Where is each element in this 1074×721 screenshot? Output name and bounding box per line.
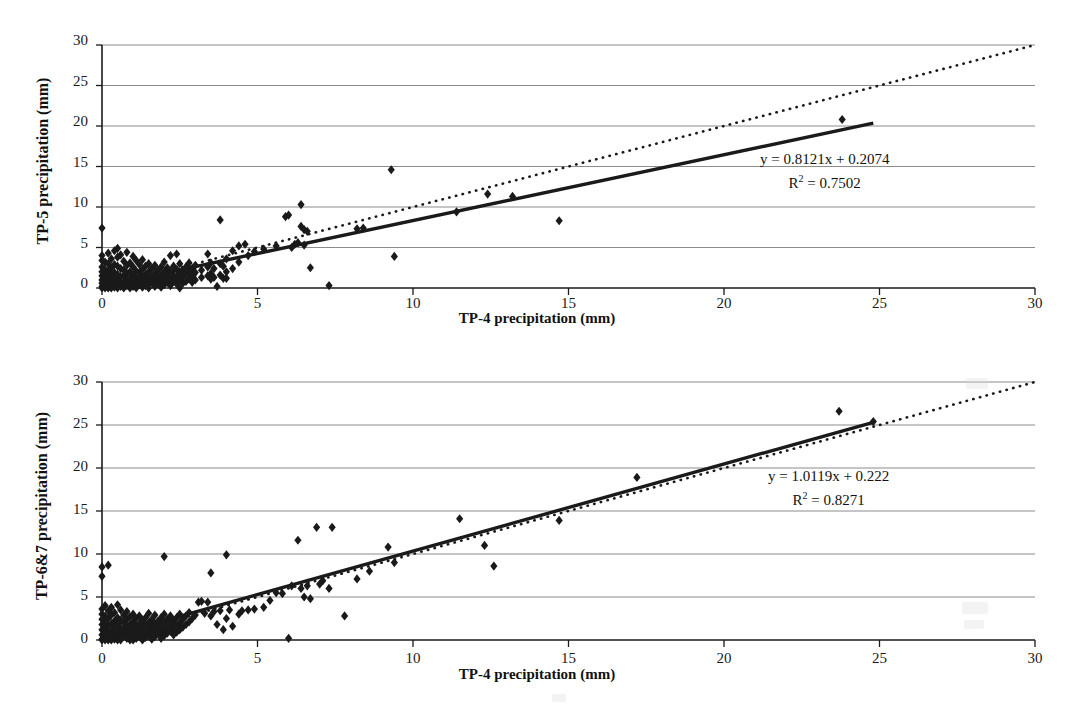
chart-1-y-axis-title: TP-5 precipitation (mm) — [33, 40, 51, 283]
data-point-marker — [385, 543, 392, 552]
data-point-marker — [198, 273, 205, 282]
chart-2-rsquared-exponent: 2 — [803, 490, 808, 501]
data-point-marker — [235, 241, 242, 250]
chart-1-equation-line: y = 0.8121x + 0.2074 — [760, 148, 889, 171]
x-tick-label: 25 — [860, 650, 900, 667]
data-point-marker — [105, 561, 112, 570]
chart-2-equation-line: y = 1.0119x + 0.222 — [768, 465, 889, 488]
chart-1-rsquared-exponent: 2 — [799, 173, 804, 184]
data-point-marker — [481, 541, 488, 550]
data-point-marker — [204, 598, 211, 607]
data-point-marker — [123, 248, 130, 257]
y-tick-label: 20 — [50, 458, 88, 475]
x-tick-label: 25 — [860, 295, 900, 312]
x-tick-label: 30 — [1015, 295, 1055, 312]
y-tick-label: 5 — [50, 587, 88, 604]
chart-1-data-points — [98, 115, 845, 293]
chart-2-x-axis-title: TP-4 precipitation (mm) — [0, 666, 1074, 683]
data-point-marker — [223, 614, 230, 623]
x-tick-label: 15 — [549, 295, 589, 312]
data-point-marker — [329, 523, 336, 532]
chart-1-gridlines — [102, 45, 1035, 248]
chart-2-equation-annotation: y = 1.0119x + 0.222 R2 = 0.8271 — [768, 465, 889, 511]
chart-1-rsquared-label: R — [789, 175, 799, 191]
regression-fit-line — [102, 422, 873, 638]
data-point-marker — [223, 550, 230, 559]
regression-fit-line — [102, 123, 873, 286]
scatter-chart-tp5: y = 0.8121x + 0.2074 R2 = 0.7502 TP-5 pr… — [0, 0, 1074, 360]
chart-2-data-points — [98, 407, 876, 645]
data-point-marker — [391, 252, 398, 261]
scan-artifact-a — [966, 378, 988, 389]
y-tick-label: 10 — [50, 194, 88, 211]
y-tick-label: 30 — [50, 372, 88, 389]
x-tick-label: 20 — [704, 295, 744, 312]
data-point-marker — [229, 622, 236, 631]
data-point-marker — [301, 592, 308, 601]
chart-2-rsquared-label: R — [793, 492, 803, 508]
data-point-marker — [161, 552, 168, 561]
data-point-marker — [353, 574, 360, 583]
data-point-marker — [307, 594, 314, 603]
y-tick-label: 5 — [50, 235, 88, 252]
data-point-marker — [556, 216, 563, 225]
y-tick-label: 0 — [50, 275, 88, 292]
chart-2-gridlines — [102, 382, 1035, 597]
figure-root: y = 0.8121x + 0.2074 R2 = 0.7502 TP-5 pr… — [0, 0, 1074, 721]
data-point-marker — [835, 407, 842, 416]
y-tick-label: 10 — [50, 544, 88, 561]
data-point-marker — [456, 514, 463, 523]
y-tick-label: 0 — [50, 630, 88, 647]
data-point-marker — [207, 568, 214, 577]
data-point-marker — [204, 249, 211, 258]
data-point-marker — [325, 584, 332, 593]
data-point-marker — [366, 567, 373, 576]
chart-1-x-axis-title: TP-4 precipitation (mm) — [0, 310, 1074, 327]
data-point-marker — [226, 605, 233, 614]
x-tick-label: 15 — [549, 650, 589, 667]
data-point-marker — [98, 223, 105, 232]
data-point-marker — [297, 584, 304, 593]
x-tick-label: 10 — [393, 650, 433, 667]
chart-2-y-axis-title: TP-6&7 precipitation (mm) — [33, 377, 51, 635]
data-point-marker — [490, 561, 497, 570]
x-tick-label: 0 — [82, 650, 122, 667]
scan-artifact-d — [552, 694, 566, 702]
scatter-chart-tp67: y = 1.0119x + 0.222 R2 = 0.8271 TP-6&7 p… — [0, 355, 1074, 721]
data-point-marker — [307, 263, 314, 272]
chart-1-rsquared-value: = 0.7502 — [807, 175, 860, 191]
data-point-marker — [839, 115, 846, 124]
x-tick-label: 20 — [704, 650, 744, 667]
x-tick-label: 10 — [393, 295, 433, 312]
data-point-marker — [341, 611, 348, 620]
y-tick-label: 20 — [50, 113, 88, 130]
data-point-marker — [220, 625, 227, 634]
data-point-marker — [484, 189, 491, 198]
scan-artifact-c — [964, 620, 984, 629]
chart-1-fit-line — [102, 123, 873, 286]
y-tick-label: 15 — [50, 154, 88, 171]
x-tick-label: 5 — [238, 650, 278, 667]
data-point-marker — [325, 281, 332, 290]
data-point-marker — [251, 604, 258, 613]
data-point-marker — [245, 251, 252, 260]
chart-2-fit-line — [102, 422, 873, 638]
data-point-marker — [313, 523, 320, 532]
x-tick-label: 0 — [82, 295, 122, 312]
data-point-marker — [260, 603, 267, 612]
chart-2-rsquared-value: = 0.8271 — [811, 492, 864, 508]
data-point-marker — [98, 572, 105, 581]
data-point-marker — [453, 207, 460, 216]
data-point-marker — [391, 558, 398, 567]
data-point-marker — [297, 200, 304, 209]
data-point-marker — [213, 620, 220, 629]
y-tick-label: 30 — [50, 32, 88, 49]
data-point-marker — [167, 251, 174, 260]
data-point-marker — [213, 282, 220, 291]
chart-2-rsquared-line: R2 = 0.8271 — [768, 488, 889, 512]
data-point-marker — [229, 264, 236, 273]
y-tick-label: 25 — [50, 415, 88, 432]
data-point-marker — [245, 605, 252, 614]
y-tick-label: 15 — [50, 501, 88, 518]
y-tick-label: 25 — [50, 73, 88, 90]
